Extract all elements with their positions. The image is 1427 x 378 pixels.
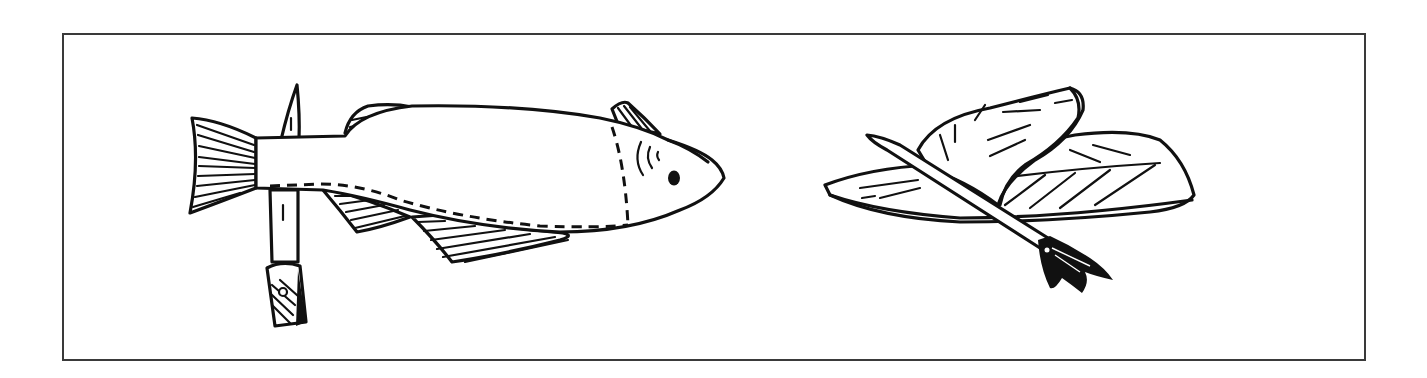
skewer-tip — [281, 85, 299, 140]
fish-on-skewer-illustration — [190, 85, 724, 326]
fillets-on-skewer-illustration — [825, 88, 1194, 293]
tail-fin — [190, 118, 256, 213]
fish-eye — [668, 171, 680, 186]
illustration — [0, 0, 1427, 378]
skewer-handle — [267, 263, 306, 326]
fish-body — [256, 106, 724, 232]
skewer-shaft — [270, 190, 298, 262]
